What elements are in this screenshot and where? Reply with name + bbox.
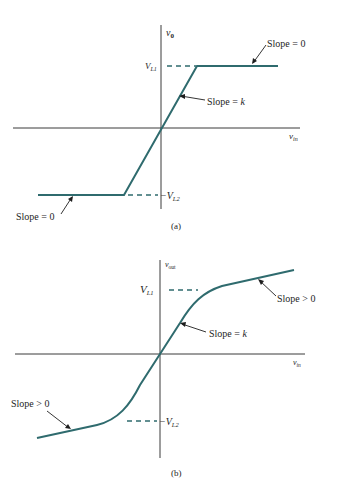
arrow-middle [182,324,206,332]
annotation-slope-bottom-left: Slope = 0 [16,211,54,222]
lower-limit-label: −VL2 [160,190,180,202]
arrow-bottom-left [47,411,69,428]
x-axis-label: vin [289,131,298,142]
annotation-slope-middle: Slope = k [207,96,245,107]
annotation-slope-bottom-left: Slope > 0 [11,398,49,409]
arrow-top-right [260,281,276,296]
annotation-slope-top-right: Slope = 0 [267,38,305,49]
upper-limit-label: VL1 [145,61,157,72]
arrowhead-icon [68,196,73,202]
upper-limit-label: VL1 [140,283,154,296]
y-axis-label: v0 [166,27,174,40]
lower-limit-label: −VL2 [159,416,179,428]
figure-a: v0 VL1 vin −VL2 Slope = 0 Slope = k Slop… [13,25,305,231]
annotation-slope-top-right: Slope > 0 [277,293,315,304]
caption-b: (b) [171,468,182,478]
x-axis-label: vin [293,358,301,368]
arrowhead-icon [65,424,71,429]
y-axis-label: vout [165,260,176,270]
annotation-slope-middle: Slope = k [209,328,247,339]
caption-a: (a) [171,221,181,231]
limiter-transfer-diagrams: v0 VL1 vin −VL2 Slope = 0 Slope = k Slop… [0,0,341,494]
figure-b: vout VL1 vin −VL2 Slope > 0 Slope = k Sl… [11,260,315,478]
transfer-curve [38,66,278,195]
